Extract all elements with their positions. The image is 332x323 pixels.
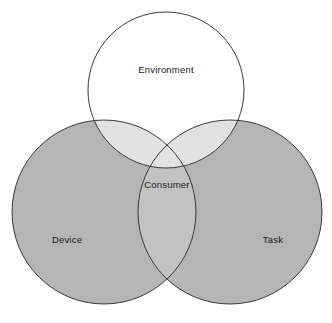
venn-diagram-canvas: Environment Consumer Device Task	[0, 0, 332, 323]
venn-diagram: Environment Consumer Device Task	[0, 0, 332, 323]
device-label: Device	[52, 234, 82, 245]
consumer-label: Consumer	[144, 179, 189, 190]
environment-label: Environment	[138, 64, 194, 75]
task-label: Task	[263, 234, 283, 245]
